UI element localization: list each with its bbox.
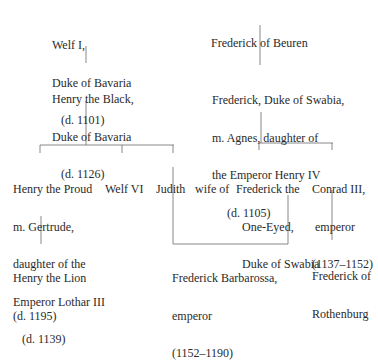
date-line: (d. 1139) (13, 333, 105, 346)
name-line: Frederick Barbarossa, (172, 272, 277, 285)
person-frederick-barbarossa: Frederick Barbarossa, emperor (1152–1190… (172, 247, 277, 364)
name-line: Welf I, (52, 39, 131, 52)
name-line: One-Eyed, (236, 221, 319, 234)
person-judith: Judith (156, 158, 185, 208)
spouse-line: m. Agnes, daughter of (212, 132, 344, 145)
date-line: (1152–1190) (172, 347, 277, 360)
title-line: emperor (172, 310, 277, 323)
name-line: Judith (156, 183, 185, 196)
name-line: Frederick of Beuren (211, 37, 308, 50)
relation-label: wife of (195, 183, 229, 196)
person-frederick-of-beuren: Frederick of Beuren (211, 12, 308, 62)
spouse-line: m. Gertrude, (13, 221, 105, 234)
relation-wife-of: wife of (195, 158, 229, 208)
name-line: Welf VI (105, 183, 143, 196)
title-line: emperor (312, 221, 373, 234)
title-line: Duke of Bavaria (52, 131, 134, 144)
date-line: (d. 1195) (13, 310, 86, 323)
name-line: Henry the Lion (13, 272, 86, 285)
person-frederick-of-rothenburg: Frederick of Rothenburg (312, 245, 371, 333)
name-line: Frederick, Duke of Swabia, (212, 94, 344, 107)
name-line: Frederick of (312, 270, 371, 283)
name-line: Conrad III, (312, 183, 373, 196)
person-welf-vi: Welf VI (105, 158, 143, 208)
name-line: Rothenburg (312, 308, 371, 321)
person-henry-the-lion: Henry the Lion (d. 1195) (13, 247, 86, 335)
name-line: Henry the Proud (13, 183, 105, 196)
name-line: Henry the Black, (52, 93, 134, 106)
name-line: Frederick the (236, 183, 319, 196)
